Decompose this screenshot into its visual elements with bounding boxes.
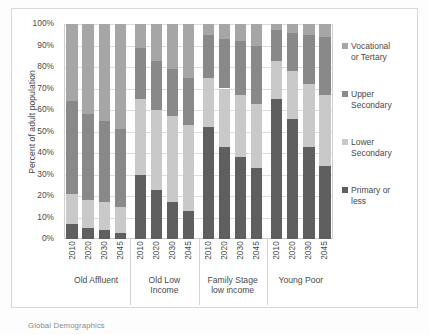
bar-stack[interactable] — [183, 24, 194, 239]
bar-segment[interactable] — [99, 202, 110, 230]
bar-segment[interactable] — [235, 157, 246, 239]
bar-segment[interactable] — [303, 35, 314, 84]
bar-segment[interactable] — [82, 114, 93, 200]
bar-stack[interactable] — [115, 24, 126, 239]
bar-segment[interactable] — [251, 24, 262, 46]
bar-segment[interactable] — [115, 207, 126, 233]
bar-segment[interactable] — [183, 24, 194, 78]
bar-segment[interactable] — [99, 121, 110, 203]
bar-stack[interactable] — [167, 24, 178, 239]
bar-segment[interactable] — [271, 61, 282, 100]
bar-segment[interactable] — [167, 69, 178, 116]
bar-segment[interactable] — [66, 101, 77, 193]
bar-segment[interactable] — [115, 233, 126, 239]
bar-segment[interactable] — [235, 95, 246, 157]
bar-segment[interactable] — [303, 24, 314, 35]
bar-stack[interactable] — [319, 24, 330, 239]
bar-segment[interactable] — [183, 211, 194, 239]
bar-segment[interactable] — [183, 125, 194, 211]
bar-segment[interactable] — [251, 46, 262, 104]
bar-segment[interactable] — [99, 230, 110, 239]
bar-segment[interactable] — [183, 78, 194, 125]
bar-segment[interactable] — [135, 175, 146, 240]
x-tick-year-label: 2045 — [116, 241, 124, 260]
legend-item[interactable]: Lower Secondary — [342, 137, 416, 160]
legend-item[interactable]: Primary or less — [342, 185, 416, 208]
bar-segment[interactable] — [203, 24, 214, 35]
bar-stack[interactable] — [287, 24, 298, 239]
bar-segment[interactable] — [251, 104, 262, 169]
bar-segment[interactable] — [167, 24, 178, 69]
bar-segment[interactable] — [203, 35, 214, 78]
bar-stack[interactable] — [203, 24, 214, 239]
bar-segment[interactable] — [319, 37, 330, 95]
bar-segment[interactable] — [287, 71, 298, 118]
bar-segment[interactable] — [167, 202, 178, 239]
bar-segment[interactable] — [151, 24, 162, 61]
bar-segment[interactable] — [319, 95, 330, 166]
bar-segment[interactable] — [251, 168, 262, 239]
bar-segment[interactable] — [66, 24, 77, 101]
bar-segment[interactable] — [66, 194, 77, 224]
y-tick-label: 80% — [37, 62, 54, 70]
bar-segment[interactable] — [203, 127, 214, 239]
x-axis-group-label: Family Stage low income — [201, 275, 265, 296]
bar-segment[interactable] — [319, 24, 330, 37]
bar-segment[interactable] — [235, 24, 246, 41]
y-tick-label: 40% — [37, 148, 54, 156]
bar-segment[interactable] — [303, 84, 314, 146]
bar-segment[interactable] — [271, 30, 282, 60]
bar-segment[interactable] — [271, 24, 282, 30]
bar-segment[interactable] — [319, 166, 330, 239]
legend-item[interactable]: Vocational or Tertary — [342, 41, 416, 64]
bar-segment[interactable] — [167, 116, 178, 202]
legend-item[interactable]: Upper Secondary — [342, 89, 416, 112]
bar-segment[interactable] — [82, 200, 93, 228]
bar-stack[interactable] — [151, 24, 162, 239]
bar-segment[interactable] — [115, 24, 126, 129]
bar-segment[interactable] — [287, 119, 298, 239]
bar-stack[interactable] — [251, 24, 262, 239]
bar-segment[interactable] — [303, 147, 314, 239]
bar-stack[interactable] — [219, 24, 230, 239]
x-tick-year-label: 2045 — [320, 241, 328, 260]
bar-stack[interactable] — [66, 24, 77, 239]
bar-stack[interactable] — [303, 24, 314, 239]
x-tick-year-label: 2010 — [136, 241, 144, 260]
bar-segment[interactable] — [82, 228, 93, 239]
legend-label: Upper Secondary — [351, 89, 392, 112]
bar-segment[interactable] — [66, 224, 77, 239]
y-tick-label: 100% — [33, 19, 54, 27]
bar-segment[interactable] — [235, 41, 246, 95]
chart-figure: Percent of adult population 100%90%80%70… — [0, 0, 429, 335]
y-tick-label: 70% — [37, 84, 54, 92]
legend-swatch-upper — [342, 91, 348, 97]
bar-segment[interactable] — [219, 89, 230, 147]
bar-stack[interactable] — [135, 24, 146, 239]
bar-segment[interactable] — [219, 24, 230, 39]
bar-segment[interactable] — [219, 147, 230, 239]
bar-segment[interactable] — [99, 24, 110, 121]
bar-segment[interactable] — [219, 39, 230, 88]
bar-stack[interactable] — [82, 24, 93, 239]
bar-stack[interactable] — [271, 24, 282, 239]
y-tick-label: 30% — [37, 170, 54, 178]
bar-segment[interactable] — [135, 48, 146, 100]
legend-swatch-primary — [342, 187, 348, 193]
y-tick-label: 50% — [37, 127, 54, 135]
x-tick-year-label: 2020 — [152, 241, 160, 260]
bar-segment[interactable] — [287, 24, 298, 33]
bar-segment[interactable] — [287, 33, 298, 72]
bar-segment[interactable] — [203, 78, 214, 127]
legend-swatch-vocational — [342, 43, 348, 49]
bar-segment[interactable] — [151, 190, 162, 239]
bar-stack[interactable] — [235, 24, 246, 239]
bar-segment[interactable] — [135, 99, 146, 174]
bar-segment[interactable] — [135, 24, 146, 48]
bar-segment[interactable] — [151, 61, 162, 110]
bar-segment[interactable] — [82, 24, 93, 114]
bar-segment[interactable] — [151, 110, 162, 190]
bar-stack[interactable] — [99, 24, 110, 239]
bar-segment[interactable] — [115, 129, 126, 206]
bar-segment[interactable] — [271, 99, 282, 239]
